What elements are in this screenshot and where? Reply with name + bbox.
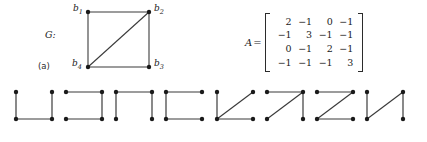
spanning-tree-4-vertex-tl xyxy=(164,90,168,94)
spanning-tree-5-edge-bl-tr xyxy=(217,92,253,119)
spanning-tree-4 xyxy=(158,86,210,126)
spanning-tree-3 xyxy=(108,86,160,126)
matrix-cell-r1-c4: −1 xyxy=(334,15,355,29)
spanning-tree-8-edge-bl-tr xyxy=(367,92,403,119)
spanning-tree-2-drawing xyxy=(58,86,110,126)
spanning-tree-5 xyxy=(209,86,261,126)
spanning-tree-4-vertex-tr xyxy=(200,90,204,94)
spanning-tree-6-vertex-tr xyxy=(301,90,305,94)
spanning-tree-7-vertex-tl xyxy=(315,90,319,94)
spanning-tree-1-vertex-br xyxy=(50,117,54,121)
matrix-cell-r4-c2: −1 xyxy=(293,56,314,70)
matrix-cell-r3-c1: 0 xyxy=(273,43,294,57)
matrix-cell-r2-c2: 3 xyxy=(293,29,314,43)
matrix-cell-r3-c3: 2 xyxy=(314,43,335,57)
spanning-tree-8-drawing xyxy=(359,86,411,126)
matrix-cell-r3-c4: −1 xyxy=(334,43,355,57)
vertex-label-b1: b1 xyxy=(73,4,83,15)
spanning-tree-5-vertex-br xyxy=(251,117,255,121)
matrix-cell-r1-c3: 0 xyxy=(314,15,335,29)
matrix-expression: A = 2−10−1−13−1−10−12−1−1−1−13 xyxy=(245,13,363,72)
matrix-cells-grid: 2−10−1−13−1−10−12−1−1−1−13 xyxy=(271,13,357,72)
spanning-tree-3-vertex-tr xyxy=(150,90,154,94)
spanning-tree-1-vertex-tr xyxy=(50,90,54,94)
spanning-tree-3-vertex-br xyxy=(150,117,154,121)
vertex-label-b2: b2 xyxy=(154,4,164,15)
matrix-cell-r4-c4: 3 xyxy=(334,56,355,70)
spanning-tree-8-vertex-tr xyxy=(401,90,405,94)
panel-tag-a: (a) xyxy=(38,62,50,71)
spanning-tree-2-vertex-tl xyxy=(64,90,68,94)
spanning-tree-8-vertex-bl xyxy=(365,117,369,121)
panel-b-matrix: A = 2−10−1−13−1−10−12−1−1−1−13 (b) xyxy=(210,0,427,86)
spanning-tree-6-drawing xyxy=(259,86,311,126)
matrix-cell-r2-c4: −1 xyxy=(334,29,355,43)
spanning-tree-8-vertex-br xyxy=(401,117,405,121)
equals-sign: = xyxy=(253,37,261,48)
spanning-tree-7-vertex-tr xyxy=(351,90,355,94)
spanning-tree-7-vertex-bl xyxy=(315,117,319,121)
matrix-left-bracket xyxy=(265,13,271,72)
graph-vertex-b4 xyxy=(86,65,90,69)
spanning-tree-8-vertex-tl xyxy=(365,90,369,94)
vertex-label-b3-index: 3 xyxy=(160,63,164,71)
spanning-tree-5-vertex-bl xyxy=(215,117,219,121)
edge-b4-b2-diagonal xyxy=(88,12,149,67)
vertex-label-b4: b4 xyxy=(72,59,82,70)
matrix-cell-r4-c1: −1 xyxy=(273,56,294,70)
matrix-cell-r1-c1: 2 xyxy=(273,15,294,29)
spanning-tree-2-vertex-br xyxy=(100,117,104,121)
spanning-tree-6 xyxy=(259,86,311,126)
spanning-tree-6-edge-bl-tr xyxy=(267,92,303,119)
graph-g-edges xyxy=(88,12,149,67)
spanning-tree-7-drawing xyxy=(309,86,361,126)
figure-root: G: b1 b2 b3 b4 (a) A = 2−10−1−13−1−10−12… xyxy=(0,0,427,142)
matrix-cell-r4-c3: −1 xyxy=(314,56,335,70)
spanning-tree-3-vertex-bl xyxy=(114,117,118,121)
matrix-cell-r3-c2: −1 xyxy=(293,43,314,57)
graph-g-name: G: xyxy=(45,30,56,40)
spanning-tree-5-vertex-tr xyxy=(251,90,255,94)
spanning-tree-1-vertex-bl xyxy=(14,117,18,121)
graph-vertex-b3 xyxy=(147,65,151,69)
panel-c-spanning-trees: (c) xyxy=(0,86,427,142)
matrix-cell-r2-c1: −1 xyxy=(273,29,294,43)
spanning-tree-1-drawing xyxy=(8,86,60,126)
spanning-tree-3-drawing xyxy=(108,86,160,126)
spanning-tree-3-vertex-tl xyxy=(114,90,118,94)
matrix-cell-r2-c3: −1 xyxy=(314,29,335,43)
spanning-tree-8 xyxy=(359,86,411,126)
spanning-tree-7-vertex-br xyxy=(351,117,355,121)
spanning-tree-6-vertex-br xyxy=(301,117,305,121)
graph-g-drawing xyxy=(0,0,210,86)
spanning-tree-7-edge-bl-tr xyxy=(317,92,353,119)
matrix-cell-r1-c2: −1 xyxy=(293,15,314,29)
matrix-name-label: A xyxy=(245,37,252,48)
spanning-tree-2-vertex-bl xyxy=(64,117,68,121)
vertex-label-b1-index: 1 xyxy=(79,8,83,16)
vertex-label-b3: b3 xyxy=(154,59,164,70)
spanning-tree-2-vertex-tr xyxy=(100,90,104,94)
spanning-tree-4-vertex-br xyxy=(200,117,204,121)
spanning-tree-1 xyxy=(8,86,60,126)
spanning-tree-6-vertex-bl xyxy=(265,117,269,121)
matrix-right-bracket xyxy=(357,13,363,72)
spanning-tree-4-vertex-bl xyxy=(164,117,168,121)
spanning-tree-6-vertex-tl xyxy=(265,90,269,94)
spanning-tree-1-vertex-tl xyxy=(14,90,18,94)
spanning-tree-4-drawing xyxy=(158,86,210,126)
spanning-tree-5-drawing xyxy=(209,86,261,126)
vertex-label-b2-index: 2 xyxy=(160,8,164,16)
vertex-label-b4-index: 4 xyxy=(78,63,82,71)
panel-a-graph: G: b1 b2 b3 b4 (a) xyxy=(0,0,210,86)
graph-vertex-b2 xyxy=(147,10,151,14)
spanning-tree-5-vertex-tl xyxy=(215,90,219,94)
spanning-tree-7 xyxy=(309,86,361,126)
graph-vertex-b1 xyxy=(86,10,90,14)
spanning-tree-2 xyxy=(58,86,110,126)
